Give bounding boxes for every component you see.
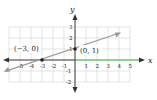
y-tick-labels: 3 2 1 -1 -2 (66, 24, 73, 85)
y-axis-label: y (69, 5, 75, 14)
x-axis-label: x (148, 56, 153, 65)
svg-text:1: 1 (85, 63, 89, 69)
svg-text:-3: -3 (40, 63, 46, 69)
svg-text:-4: -4 (29, 63, 35, 69)
x-axis-right-arrow-icon (139, 58, 145, 63)
coordinate-plane: x y -5 -4 -3 -2 -1 1 2 3 4 5 3 2 1 -1 -2 (0, 0, 157, 100)
svg-text:2: 2 (69, 35, 73, 41)
plotted-points: (−3, 0) (0, 1) (13, 43, 103, 62)
y-axis-down-arrow-icon (73, 87, 78, 93)
svg-text:4: 4 (118, 63, 122, 69)
y-axis-up-arrow-icon (73, 14, 78, 20)
point-x-intercept (40, 58, 44, 62)
svg-text:-1: -1 (66, 68, 71, 74)
svg-text:3: 3 (107, 63, 111, 69)
point-y-intercept (73, 47, 77, 51)
point-label-x-intercept: (−3, 0) (14, 45, 39, 53)
svg-text:3: 3 (69, 24, 73, 30)
x-axis-left-arrow-icon (3, 58, 9, 63)
point-label-y-intercept: (0, 1) (80, 47, 99, 55)
svg-text:2: 2 (96, 63, 100, 69)
svg-text:-2: -2 (66, 79, 71, 85)
svg-text:-2: -2 (51, 63, 56, 69)
svg-text:5: 5 (129, 63, 133, 69)
line-arrow-icon (115, 33, 121, 38)
